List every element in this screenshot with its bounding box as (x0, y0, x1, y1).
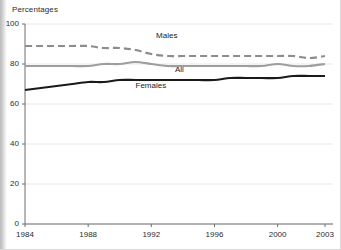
series-label-all: All (175, 65, 184, 74)
y-tick-label: 100 (0, 19, 19, 28)
y-tick-label: 40 (0, 139, 19, 148)
series-label-females: Females (136, 81, 167, 90)
x-tick-label: 1992 (134, 230, 168, 239)
series-label-males: Males (156, 31, 177, 40)
x-tick-label: 1984 (8, 230, 42, 239)
tick-marks (22, 24, 325, 227)
gridlines (25, 24, 333, 224)
x-tick-label: 2000 (261, 230, 295, 239)
y-tick-label: 60 (0, 99, 19, 108)
y-tick-label: 0 (0, 219, 19, 228)
series-line-females (25, 76, 325, 90)
x-tick-label: 1996 (197, 230, 231, 239)
y-tick-label: 20 (0, 179, 19, 188)
series-line-males (25, 46, 325, 58)
y-tick-label: 80 (0, 59, 19, 68)
axis-lines (25, 24, 333, 224)
x-tick-label: 1988 (71, 230, 105, 239)
chart-figure: Percentages 020406080100 198419881992199… (0, 0, 341, 250)
x-tick-label: 2003 (308, 230, 341, 239)
